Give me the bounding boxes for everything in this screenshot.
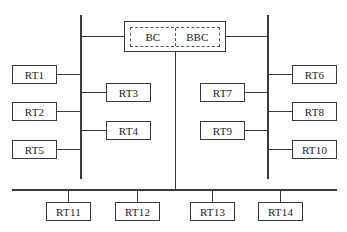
rt8-box: RT8 [292, 102, 337, 121]
rt3-connector [81, 92, 106, 93]
bc-to-left-bus-line [81, 36, 124, 37]
rt13-connector [212, 190, 213, 202]
rt5-connector [56, 149, 81, 150]
rt4-connector [81, 130, 106, 131]
rt7-connector [244, 92, 268, 93]
rt8-connector [268, 111, 292, 112]
bus-controller-inner: BC BBC [130, 27, 220, 47]
rt14-box: RT14 [258, 202, 303, 221]
rt6-connector [268, 74, 292, 75]
bbc-to-right-bus-line [225, 36, 268, 37]
rt3-box: RT3 [106, 83, 151, 102]
rt1-connector [56, 74, 81, 75]
rt1-box: RT1 [12, 65, 57, 84]
rt4-box: RT4 [106, 121, 151, 140]
rt9-connector [244, 130, 268, 131]
left-bus-line [80, 15, 82, 179]
rt10-connector [268, 149, 292, 150]
rt6-box: RT6 [292, 65, 337, 84]
rt12-connector [137, 190, 138, 202]
rt5-box: RT5 [12, 140, 57, 159]
bbc-label: BBC [175, 28, 220, 46]
rt7-box: RT7 [200, 83, 245, 102]
controller-to-bottom-bus-line [175, 52, 176, 190]
bc-label: BC [131, 28, 175, 46]
rt12-box: RT12 [115, 202, 160, 221]
rt2-connector [56, 111, 81, 112]
rt9-box: RT9 [200, 121, 245, 140]
rt11-box: RT11 [46, 202, 91, 221]
rt13-box: RT13 [190, 202, 235, 221]
rt11-connector [68, 190, 69, 202]
rt2-box: RT2 [12, 102, 57, 121]
right-bus-line [267, 15, 269, 179]
rt14-connector [280, 190, 281, 202]
rt10-box: RT10 [292, 140, 337, 159]
